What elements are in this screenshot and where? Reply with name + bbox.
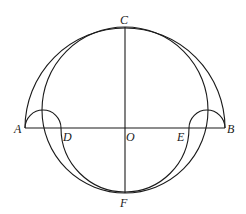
label-e: E — [176, 130, 185, 144]
label-f: F — [119, 196, 128, 210]
label-o: O — [126, 130, 135, 144]
label-c: C — [120, 13, 129, 27]
label-b: B — [227, 122, 235, 136]
label-d: D — [62, 130, 72, 144]
salinon-diagram: C A B D O E F — [0, 0, 246, 214]
label-a: A — [13, 122, 22, 136]
